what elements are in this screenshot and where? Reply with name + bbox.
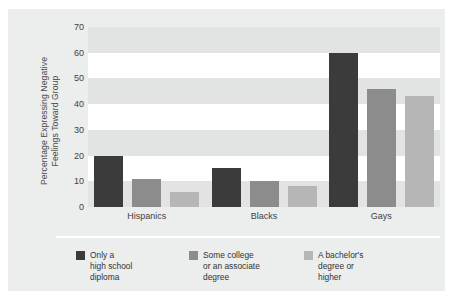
legend-item: Only a high school diploma [76, 250, 132, 284]
x-axis-category-label: Blacks [251, 211, 278, 221]
bar [132, 179, 161, 207]
x-axis-category-labels: HispanicsBlacksGays [88, 211, 440, 225]
bar [329, 53, 358, 207]
bar-group [212, 27, 317, 207]
bar [170, 192, 199, 207]
bar-series-container [88, 27, 440, 207]
bar [94, 156, 123, 207]
chart-figure: Percentage Expressing Negative Feelings … [0, 0, 457, 296]
bar [288, 186, 317, 207]
y-axis-tick-label: 60 [56, 48, 84, 58]
y-axis-title-line1: Percentage Expressing Negative [39, 57, 49, 185]
bar [405, 96, 434, 207]
y-axis-tick-label: 10 [56, 176, 84, 186]
y-axis-tick-label: 0 [56, 202, 84, 212]
plot-area [88, 27, 440, 207]
y-axis-tick-labels: 010203040506070 [56, 27, 84, 207]
x-axis-category-label: Gays [371, 211, 392, 221]
chart-panel: Percentage Expressing Negative Feelings … [8, 9, 445, 291]
legend-swatch-icon [189, 251, 198, 260]
bar [367, 89, 396, 207]
legend-item: Some college or an associate degree [189, 250, 260, 284]
bar-group [94, 27, 199, 207]
y-axis-tick-label: 30 [56, 125, 84, 135]
legend-swatch-icon [304, 251, 313, 260]
legend-label: A bachelor's degree or higher [318, 250, 363, 284]
y-axis-tick-label: 20 [56, 151, 84, 161]
legend: Only a high school diplomaSome college o… [76, 250, 406, 296]
x-axis-category-label: Hispanics [127, 211, 166, 221]
legend-label: Some college or an associate degree [203, 250, 260, 284]
legend-divider [56, 236, 440, 238]
legend-label: Only a high school diploma [90, 250, 132, 284]
y-axis-tick-label: 50 [56, 73, 84, 83]
bar [212, 168, 241, 207]
legend-item: A bachelor's degree or higher [304, 250, 363, 284]
legend-swatch-icon [76, 251, 85, 260]
y-axis-tick-label: 70 [56, 22, 84, 32]
bar-group [329, 27, 434, 207]
y-axis-tick-label: 40 [56, 99, 84, 109]
bar [250, 181, 279, 207]
